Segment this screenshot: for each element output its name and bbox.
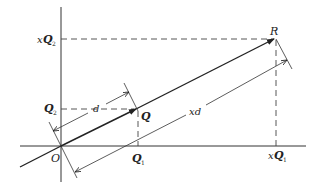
svg-text:2: 2 xyxy=(52,40,56,47)
dim-line-d-right xyxy=(106,92,129,104)
label-q2: Q 2 xyxy=(44,102,57,116)
label-xd: xd xyxy=(189,106,201,117)
svg-text:2: 2 xyxy=(53,109,57,116)
label-q: Q xyxy=(141,110,151,123)
vector-qr xyxy=(136,39,274,109)
svg-text:1: 1 xyxy=(141,159,145,166)
dim-line-d-left xyxy=(53,113,88,131)
label-r: R xyxy=(269,25,278,38)
label-q1: Q 1 xyxy=(132,152,145,166)
dim-line-xd-left xyxy=(75,115,186,172)
label-d: d xyxy=(93,103,99,114)
label-o: O xyxy=(51,152,60,165)
vector-oq xyxy=(61,109,136,146)
perp-tick-q xyxy=(124,83,138,111)
label-xq1: x Q 1 xyxy=(268,149,287,163)
svg-text:1: 1 xyxy=(283,156,287,163)
vector-diagram: O Q R Q 1 Q 2 x Q 1 x Q 2 d xd xyxy=(0,0,318,186)
label-xq2: x Q 2 xyxy=(37,33,56,47)
